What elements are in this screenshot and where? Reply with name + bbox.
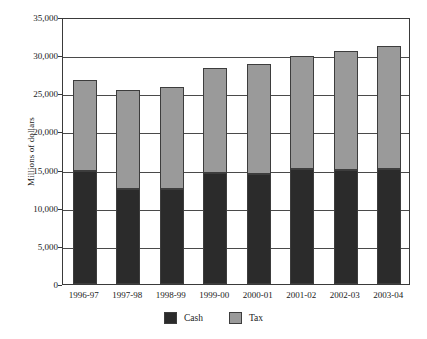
x-tick-label-2001-02: 2001-02 [280,289,324,301]
y-tick-label-25000: 25,000 [0,89,58,99]
bar-segment-cash[interactable] [247,174,271,284]
x-tick-label-1997-98: 1997-98 [106,289,150,301]
bar-group[interactable] [160,17,184,284]
bar-segment-tax[interactable] [116,90,140,189]
bar-segment-cash[interactable] [160,189,184,284]
y-tick-label-15000: 15,000 [0,166,58,176]
x-tick-label-1999-00: 1999-00 [193,289,237,301]
y-tick-label-0: 0 [0,280,58,290]
chart-legend: CashTax [0,308,427,328]
y-axis-tick-labels: 35,00030,00025,00020,00015,00010,0005,00… [0,0,58,339]
legend-label-cash: Cash [184,312,203,324]
legend-item-tax[interactable]: Tax [229,312,263,324]
stacked-bar-chart: Millions of dollars 35,00030,00025,00020… [0,0,427,339]
legend-item-cash[interactable]: Cash [164,312,203,324]
legend-swatch-cash [164,312,177,324]
bar-segment-tax[interactable] [247,64,271,174]
bar-segment-cash[interactable] [290,169,314,284]
x-tick-label-2002-03: 2002-03 [323,289,367,301]
y-tick-label-35000: 35,000 [0,13,58,23]
legend-label-tax: Tax [249,312,263,324]
x-tick-label-2003-04: 2003-04 [367,289,411,301]
bar-segment-cash[interactable] [334,170,358,284]
bar-segment-tax[interactable] [160,87,184,188]
bar-group[interactable] [377,17,401,284]
x-tick-label-1998-99: 1998-99 [149,289,193,301]
bar-segment-cash[interactable] [73,171,97,284]
plot-area [62,18,410,285]
bar-group[interactable] [290,17,314,284]
bars-layer [63,19,409,284]
bar-segment-tax[interactable] [334,51,358,170]
x-tick-label-1996-97: 1996-97 [62,289,106,301]
bar-group[interactable] [334,17,358,284]
bar-segment-cash[interactable] [116,189,140,284]
bar-group[interactable] [247,17,271,284]
y-tick-label-30000: 30,000 [0,51,58,61]
bar-segment-tax[interactable] [203,68,227,173]
bar-segment-tax[interactable] [377,46,401,169]
y-tick-label-10000: 10,000 [0,204,58,214]
legend-swatch-tax [229,312,242,324]
bar-segment-tax[interactable] [290,56,314,169]
bar-segment-cash[interactable] [203,173,227,284]
x-axis-tick-labels: 1996-971997-981998-991999-002000-012001-… [62,289,410,305]
y-tick-label-5000: 5,000 [0,242,58,252]
y-tick-mark-0 [58,285,62,286]
bar-group[interactable] [203,17,227,284]
bar-group[interactable] [116,17,140,284]
y-tick-label-20000: 20,000 [0,127,58,137]
bar-segment-cash[interactable] [377,169,401,284]
bar-segment-tax[interactable] [73,80,97,172]
bar-group[interactable] [73,17,97,284]
x-tick-label-2000-01: 2000-01 [236,289,280,301]
